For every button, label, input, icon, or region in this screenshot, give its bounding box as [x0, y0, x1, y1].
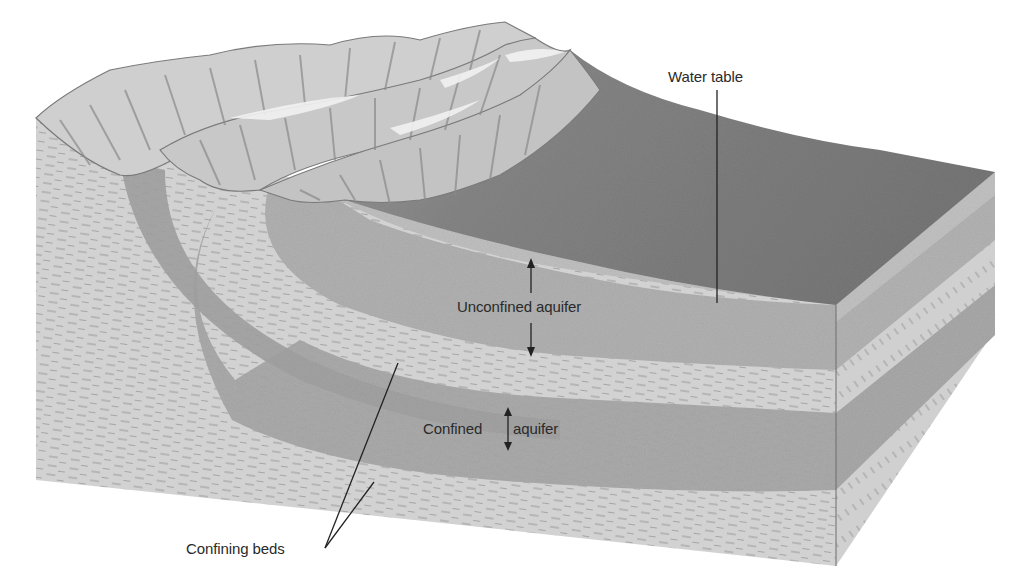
confined-aquifer-label-left: Confined: [423, 420, 482, 437]
confined-aquifer-label-right: aquifer: [513, 420, 558, 437]
confining-beds-label: Confining beds: [186, 540, 285, 557]
aquifer-block-diagram: Water table Unconfined aquifer Confined …: [0, 0, 1021, 586]
diagram-canvas: [0, 0, 1021, 586]
unconfined-aquifer-label: Unconfined aquifer: [457, 298, 581, 315]
water-table-label: Water table: [668, 68, 743, 85]
